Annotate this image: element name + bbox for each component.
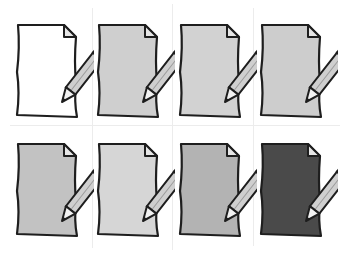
- document-edit-icon-pale-gray[interactable]: [95, 141, 175, 239]
- document-edit-icon-light-gray-3[interactable]: [258, 22, 338, 120]
- document-pencil-icon: [177, 141, 257, 239]
- document-pencil-icon: [95, 141, 175, 239]
- grid-divider: [10, 125, 340, 126]
- document-pencil-icon: [177, 22, 257, 120]
- document-pencil-icon: [14, 141, 94, 239]
- document-pencil-icon: [95, 22, 175, 120]
- document-pencil-icon: [14, 22, 94, 120]
- icon-grid: [0, 0, 349, 255]
- document-edit-icon-light-gray-2[interactable]: [177, 22, 257, 120]
- document-edit-icon-dark-gray[interactable]: [258, 141, 338, 239]
- document-edit-icon-white[interactable]: [14, 22, 94, 120]
- document-pencil-icon: [258, 22, 338, 120]
- document-edit-icon-light-gray[interactable]: [95, 22, 175, 120]
- document-pencil-icon: [258, 141, 338, 239]
- document-edit-icon-mid-gray[interactable]: [177, 141, 257, 239]
- document-edit-icon-gray[interactable]: [14, 141, 94, 239]
